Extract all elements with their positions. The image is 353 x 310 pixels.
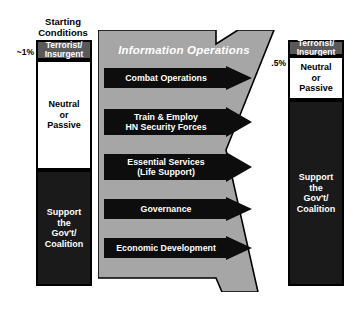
right-block-neutral-or-passive: Neutral or Passive	[288, 56, 344, 100]
left-block-support-government-coalition: Support the Gov't/ Coalition	[36, 170, 92, 286]
starting-conditions-title: Starting Conditions	[25, 16, 101, 38]
right-block-terrorist-insurgent: Terrorist/ Insurgent	[288, 40, 344, 56]
right-percent-label: .5%	[262, 58, 286, 68]
line-of-effort-arrow-train-employ-hn-security-forces: Train & Employ HN Security Forces	[104, 107, 252, 137]
information-operations-title: Information Operations	[104, 44, 264, 56]
left-block-neutral-or-passive: Neutral or Passive	[36, 60, 92, 170]
line-of-effort-arrow-governance: Governance	[104, 197, 252, 221]
line-of-effort-arrow-essential-services: Essential Services (Life Support)	[104, 152, 252, 182]
diagram-canvas: Starting Conditions ~1% Terrorist/ Insur…	[0, 0, 353, 310]
left-percent-label: ~1%	[2, 47, 34, 57]
right-block-support-government-coalition: Support the Gov't/ Coalition	[288, 100, 344, 286]
left-block-terrorist-insurgent: Terrorist/ Insurgent	[36, 40, 92, 60]
line-of-effort-arrow-combat-operations: Combat Operations	[104, 66, 252, 90]
line-of-effort-arrow-economic-development: Economic Development	[104, 236, 252, 260]
